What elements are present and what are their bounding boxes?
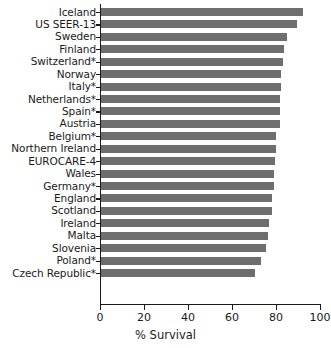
bar [100,257,261,265]
y-axis-tick [96,111,101,112]
category-label: Slovenia [0,243,96,254]
category-label: Finland [0,44,96,55]
bar [100,157,275,165]
bar [100,95,280,103]
y-axis-tick [96,161,101,162]
survival-bar-chart: IcelandUS SEER-13SwedenFinlandSwitzerlan… [0,0,331,348]
y-axis-tick [96,136,101,137]
bar [100,232,268,240]
category-label: US SEER-13 [0,19,96,30]
bar [100,45,284,53]
y-axis-tick [96,149,101,150]
category-label: EUROCARE-4 [0,156,96,167]
x-axis-tick [188,305,189,310]
x-axis-tick-label: 100 [305,311,331,324]
bar [100,182,274,190]
bar [100,170,274,178]
y-axis-tick [96,49,101,50]
y-axis-tick [96,37,101,38]
x-axis-tick-label: 80 [261,311,291,324]
y-axis-tick [96,223,101,224]
category-label: Ireland [0,218,96,229]
y-axis-tick [96,261,101,262]
y-axis-tick [96,87,101,88]
x-axis-title: % Survival [0,328,331,342]
x-axis-tick-label: 40 [173,311,203,324]
bar [100,83,281,91]
bar [100,58,283,66]
bar [100,132,276,140]
category-label: Germany* [0,181,96,192]
bar [100,145,276,153]
y-axis-tick [96,24,101,25]
category-label: Wales [0,168,96,179]
category-label: Scotland [0,205,96,216]
bar [100,33,287,41]
category-label: Italy* [0,81,96,92]
y-axis-tick [96,12,101,13]
bar [100,244,266,252]
y-axis-tick [96,62,101,63]
x-axis-tick-label: 60 [217,311,247,324]
category-label: Iceland [0,7,96,18]
y-axis-tick [96,186,101,187]
x-axis-tick [232,305,233,310]
category-label: Czech Republic* [0,268,96,279]
bar [100,20,297,28]
category-label: Netherlands* [0,94,96,105]
y-axis-tick [96,124,101,125]
x-axis-tick-label: 20 [129,311,159,324]
category-label: Norway [0,69,96,80]
bar [100,8,303,16]
bar [100,107,280,115]
category-label: Sweden [0,31,96,42]
plot-area: IcelandUS SEER-13SwedenFinlandSwitzerlan… [0,0,331,310]
x-axis-tick-label: 0 [85,311,115,324]
bar [100,207,272,215]
y-axis-tick [96,99,101,100]
y-axis-tick [96,198,101,199]
y-axis-tick [96,174,101,175]
bar [100,219,269,227]
x-axis-tick [144,305,145,310]
y-axis-tick [96,273,101,274]
y-axis-tick [96,236,101,237]
category-label: England [0,193,96,204]
category-label: Malta [0,230,96,241]
category-label: Northern Ireland [0,143,96,154]
y-axis-tick [96,74,101,75]
x-axis-tick [100,305,101,310]
bar [100,120,280,128]
category-label: Belgium* [0,131,96,142]
category-label: Poland* [0,255,96,266]
bar [100,194,272,202]
bar [100,269,255,277]
x-axis-tick [320,305,321,310]
category-label: Spain* [0,106,96,117]
y-axis-tick [96,248,101,249]
y-axis-tick [96,211,101,212]
x-axis-tick [276,305,277,310]
category-label: Austria [0,118,96,129]
category-label: Switzerland* [0,56,96,67]
bar [100,70,281,78]
x-axis-line [100,304,321,305]
